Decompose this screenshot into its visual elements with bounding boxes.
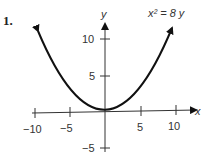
tick-y-neg5: −5 xyxy=(82,142,95,153)
equation-label: x² = 8 y xyxy=(147,7,186,19)
tick-x-neg5: −5 xyxy=(60,122,73,134)
x-axis xyxy=(32,110,196,113)
y-axis-label: y xyxy=(100,8,108,20)
tick-x-5: 5 xyxy=(137,121,143,133)
tick-x-neg10: −10 xyxy=(23,123,42,135)
parabola-chart: −10 −5 5 10 10 5 −5 y x x² = 8 y xyxy=(0,0,201,153)
tick-x-10: 10 xyxy=(168,120,180,132)
tick-y-5: 5 xyxy=(89,70,95,82)
x-axis-label: x xyxy=(194,105,201,117)
tick-y-10: 10 xyxy=(82,33,94,45)
